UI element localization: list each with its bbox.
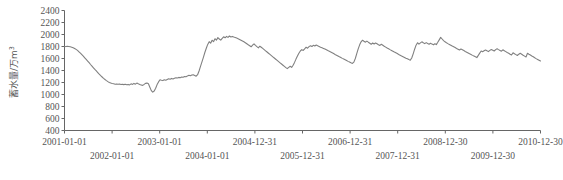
svg-text:1000: 1000 <box>41 90 60 100</box>
chart-figure: 蓄水量/万m3 40060080010001200140016001800200… <box>0 0 563 180</box>
svg-text:2008-12-30: 2008-12-30 <box>423 137 468 147</box>
svg-text:2002-01-01: 2002-01-01 <box>90 151 135 161</box>
svg-text:2004-12-31: 2004-12-31 <box>233 137 278 147</box>
svg-text:400: 400 <box>45 126 60 136</box>
svg-text:2001-01-01: 2001-01-01 <box>42 137 87 147</box>
x-axis-tick-labels: 2001-01-012002-01-012003-01-012004-01-01… <box>42 137 563 161</box>
svg-text:2003-01-01: 2003-01-01 <box>138 137 183 147</box>
svg-text:2009-12-30: 2009-12-30 <box>471 151 516 161</box>
reservoir-storage-line-chart: 蓄水量/万m3 40060080010001200140016001800200… <box>0 0 563 180</box>
svg-text:1200: 1200 <box>41 78 60 88</box>
svg-text:2007-12-31: 2007-12-31 <box>376 151 421 161</box>
data-series-line <box>65 36 541 92</box>
svg-text:2200: 2200 <box>41 18 60 28</box>
svg-text:2004-01-01: 2004-01-01 <box>185 151 230 161</box>
svg-text:1800: 1800 <box>41 42 60 52</box>
svg-text:2000: 2000 <box>41 30 60 40</box>
svg-text:2010-12-30: 2010-12-30 <box>518 137 563 147</box>
y-axis-title: 蓄水量/万m3 <box>8 46 19 98</box>
svg-text:2400: 2400 <box>41 6 60 16</box>
svg-text:1600: 1600 <box>41 54 60 64</box>
svg-text:800: 800 <box>45 102 60 112</box>
svg-text:600: 600 <box>45 114 60 124</box>
svg-text:2005-12-31: 2005-12-31 <box>280 151 325 161</box>
svg-text:1400: 1400 <box>41 66 60 76</box>
y-axis-ticks: 4006008001000120014001600180020002200240… <box>41 6 65 136</box>
svg-text:2006-12-31: 2006-12-31 <box>328 137 373 147</box>
